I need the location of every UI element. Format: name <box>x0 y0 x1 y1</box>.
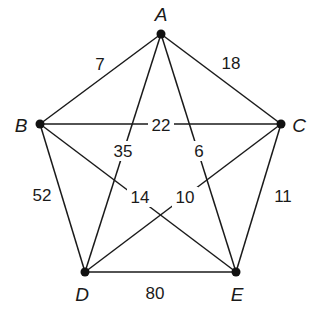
weight-label: 80 <box>146 284 165 303</box>
weight-label: 52 <box>33 186 52 205</box>
weight-label: 35 <box>114 142 133 161</box>
weight-label: 7 <box>95 55 104 74</box>
edge-weight-ad: 35 <box>110 141 136 161</box>
edge-ac <box>161 34 281 124</box>
node-e: E <box>231 268 244 305</box>
node-label: D <box>75 284 89 305</box>
node-dot-icon <box>232 268 241 277</box>
node-dot-icon <box>277 120 286 129</box>
node-label: E <box>231 284 244 305</box>
edge-weights-layer: 718223565211141080 <box>33 54 292 303</box>
weight-label: 22 <box>152 116 171 135</box>
weighted-graph-diagram: 718223565211141080 ABCDE <box>0 0 321 322</box>
edge-weight-de: 80 <box>146 284 165 303</box>
weight-label: 18 <box>222 54 241 73</box>
node-d: D <box>75 268 89 305</box>
node-a: A <box>154 4 168 39</box>
node-label: B <box>15 115 28 136</box>
weight-label: 11 <box>274 187 292 206</box>
weight-label: 6 <box>194 142 203 161</box>
edge-ab <box>40 34 161 124</box>
node-dot-icon <box>36 120 45 129</box>
weight-label: 10 <box>176 188 195 207</box>
edge-weight-cd: 10 <box>172 187 198 207</box>
edge-weight-bd: 52 <box>33 186 52 205</box>
edge-weight-ce: 11 <box>274 187 292 206</box>
node-b: B <box>15 115 45 136</box>
node-label: C <box>292 115 306 136</box>
weight-label: 14 <box>131 188 150 207</box>
node-label: A <box>154 4 168 25</box>
node-dot-icon <box>157 30 166 39</box>
edges-layer <box>40 34 281 272</box>
edge-weight-ab: 7 <box>95 55 104 74</box>
node-c: C <box>277 115 307 136</box>
edge-weight-bc: 22 <box>148 115 174 135</box>
nodes-layer: ABCDE <box>15 4 306 305</box>
node-dot-icon <box>81 268 90 277</box>
edge-weight-be: 14 <box>127 187 153 207</box>
edge-weight-ac: 18 <box>222 54 241 73</box>
edge-weight-ae: 6 <box>191 141 207 161</box>
